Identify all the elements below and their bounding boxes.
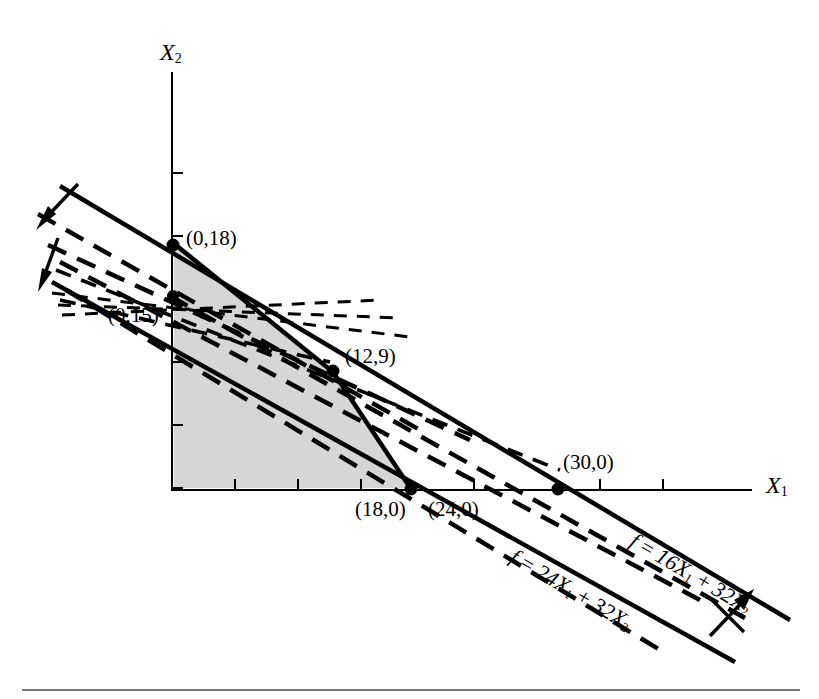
graph-canvas — [0, 0, 819, 699]
point-label-0-15: (0,15) — [108, 305, 159, 326]
point-label-18-0: (18,0) — [355, 499, 406, 520]
vertex-dot-0-15 — [167, 290, 179, 302]
vertex-dot-0-18 — [167, 239, 180, 252]
isoprofit-fan-sweep — [60, 262, 745, 650]
x-axis-label: X1 — [766, 473, 788, 499]
vertex-dot-18-0 — [405, 483, 418, 496]
y-axis-label: X2 — [160, 40, 182, 66]
decrease-arrow-upper — [36, 184, 78, 230]
point-label-24-0: (24,0) — [428, 499, 479, 520]
point-label-12-9: (12,9) — [345, 346, 396, 367]
point-label-30-0: (30,0) — [563, 452, 614, 473]
linear-programming-figure: X2 X1 (0,18) (0,15) (12,9) (18,0) (24,0)… — [0, 0, 819, 699]
objective-line-24-32 — [52, 282, 735, 662]
vertex-dot-30-0 — [552, 483, 565, 496]
point-label-0-18: (0,18) — [186, 228, 237, 249]
vertex-dot-12-9 — [327, 365, 340, 378]
